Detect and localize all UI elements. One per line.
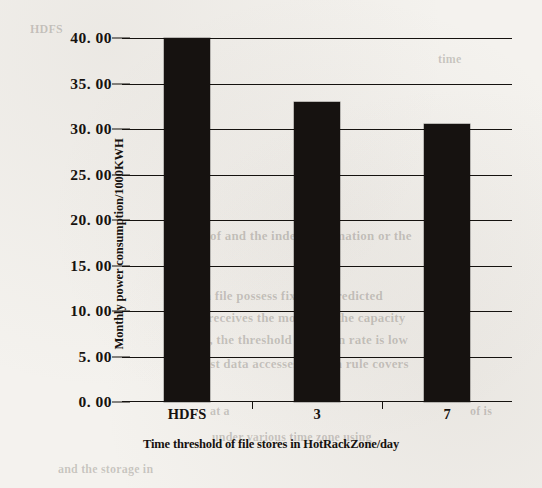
bar — [164, 38, 210, 402]
y-axis-tick-label: 35. 00 — [70, 75, 112, 93]
y-axis-tick-label: 30. 00 — [70, 120, 112, 138]
bar — [294, 102, 340, 402]
x-axis-baseline — [122, 401, 512, 402]
x-axis-tick-label-group: HDFS37 — [122, 406, 512, 428]
x-axis-tick-label: 3 — [313, 406, 320, 423]
y-axis-tick-label: 10. 00 — [70, 302, 112, 320]
plot-area — [122, 38, 512, 402]
x-axis-tick-label: 7 — [443, 406, 450, 423]
bar — [424, 124, 470, 402]
y-axis-tick-label: 20. 00 — [70, 211, 112, 229]
bars-layer — [122, 38, 512, 402]
y-axis-tick-label: 0. 00 — [79, 393, 113, 411]
x-axis-title: Time threshold of file stores in HotRack… — [0, 437, 542, 452]
y-axis-tick-label: 25. 00 — [70, 166, 112, 184]
y-axis-tick-label: 40. 00 — [70, 29, 112, 47]
y-axis-tick-label: 5. 00 — [79, 348, 113, 366]
y-axis-tick-label: 15. 00 — [70, 257, 112, 275]
x-axis-tick-label: HDFS — [168, 406, 207, 423]
bar-chart-figure: Monthly power consumption/1000KWH 40. 00… — [0, 0, 542, 488]
